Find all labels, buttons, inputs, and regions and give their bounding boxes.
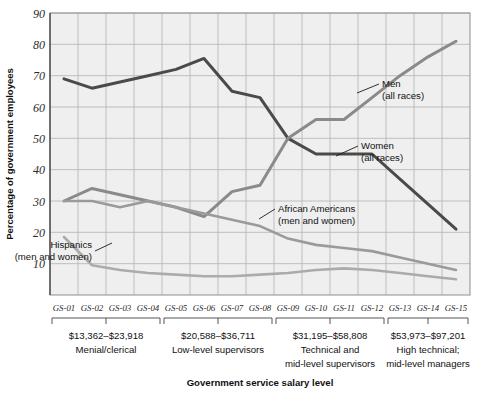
x-tick-label: GS-05 (165, 303, 188, 313)
annotation-hispanics-line2: (men and women) (15, 251, 92, 262)
y-tick-label: 80 (33, 38, 45, 52)
annotation-women-line1: Women (361, 140, 394, 151)
x-tick-label: GS-09 (277, 303, 300, 313)
group-description-line1: Low-level supervisors (172, 344, 264, 355)
y-tick-label: 30 (32, 195, 45, 209)
group-salary-range: $31,195–$58,808 (293, 330, 368, 341)
x-tick-label: GS-13 (389, 303, 412, 313)
y-tick-labels: 102030405060708090 (32, 7, 45, 272)
x-tick-label: GS-07 (221, 303, 244, 313)
group-salary-range: $53,973–$97,201 (391, 330, 466, 341)
group-description-line1: Menial/clerical (76, 344, 137, 355)
x-tick-label: GS-04 (137, 303, 160, 313)
y-tick-label: 60 (33, 101, 45, 115)
y-tick-label: 90 (33, 7, 45, 21)
plot-background (50, 13, 470, 295)
group-salary-range: $13,362–$23,918 (69, 330, 144, 341)
chart-figure: 102030405060708090 Percentage of governm… (0, 0, 496, 400)
x-tick-labels: GS-01GS-02GS-03GS-04GS-05GS-06GS-07GS-08… (53, 303, 468, 313)
annotation-men-line2: (all races) (382, 90, 424, 101)
group-description-line1: High technical; (397, 344, 460, 355)
x-tick-label: GS-08 (249, 303, 272, 313)
x-tick-label: GS-06 (193, 303, 216, 313)
group-salary-range: $20,588–$36,711 (181, 330, 255, 341)
x-tick-label: GS-01 (53, 303, 75, 313)
x-tick-label: GS-02 (81, 303, 104, 313)
x-tick-label: GS-15 (445, 303, 468, 313)
annotation-men-line1: Men (382, 78, 401, 89)
group-description-line2: mid-level managers (386, 358, 470, 369)
group-description-line2: mid-level supervisors (285, 358, 375, 369)
x-tick-label: GS-12 (361, 303, 384, 313)
group-description-line1: Technical and (301, 344, 360, 355)
y-axis-title: Percentage of government employees (4, 68, 15, 240)
x-tick-label: GS-03 (109, 303, 132, 313)
annotation-women-line2: (all races) (361, 152, 403, 163)
y-tick-label: 40 (33, 163, 45, 177)
x-tick-label: GS-14 (417, 303, 440, 313)
y-tick-label: 70 (33, 69, 45, 83)
salary-group-brackets: $13,362–$23,918Menial/clerical$20,588–$3… (52, 318, 470, 369)
x-tick-label: GS-11 (333, 303, 355, 313)
annotation-african-americans-line2: (men and women) (278, 215, 355, 226)
y-tick-label: 20 (33, 226, 45, 240)
annotation-hispanics-line1: Hispanics (50, 239, 92, 250)
x-axis-title: Government service salary level (187, 377, 334, 388)
annotation-african-americans-line1: African Americans (278, 203, 356, 214)
x-tick-label: GS-10 (305, 303, 328, 313)
y-tick-label: 50 (33, 132, 45, 146)
